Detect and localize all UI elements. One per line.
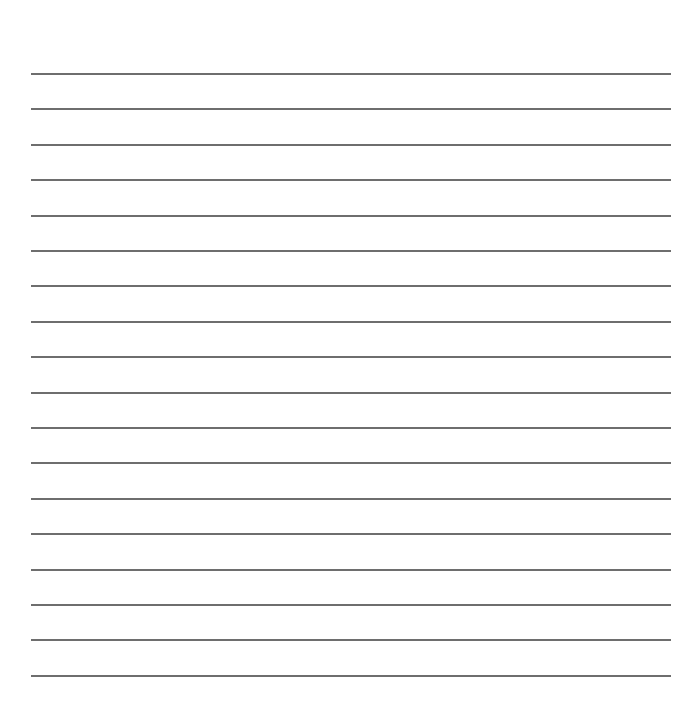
lined-paper-page [0, 0, 697, 711]
ruled-line [31, 498, 671, 500]
ruled-line [31, 356, 671, 358]
ruled-line [31, 108, 671, 110]
ruled-line [31, 179, 671, 181]
ruled-line [31, 604, 671, 606]
ruled-line [31, 250, 671, 252]
ruled-line [31, 675, 671, 677]
ruled-line [31, 533, 671, 535]
ruled-line [31, 73, 671, 75]
ruled-line [31, 569, 671, 571]
ruled-line [31, 639, 671, 641]
ruled-line [31, 144, 671, 146]
ruled-line [31, 215, 671, 217]
ruled-line [31, 321, 671, 323]
ruled-line [31, 462, 671, 464]
ruled-line [31, 427, 671, 429]
ruled-line [31, 392, 671, 394]
ruled-line [31, 285, 671, 287]
